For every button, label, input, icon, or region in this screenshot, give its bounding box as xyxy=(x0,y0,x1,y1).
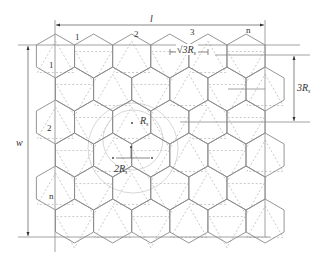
horizontal-pitch-dimension: √3Rs xyxy=(170,44,208,56)
column-labels: 123n xyxy=(75,25,251,42)
hexagon-cell xyxy=(132,199,170,243)
coverage-circles xyxy=(88,103,178,193)
column-label: 3 xyxy=(190,27,195,37)
length-label: l xyxy=(150,13,153,24)
row-label: 2 xyxy=(47,123,52,133)
arrow-up-icon xyxy=(293,56,296,60)
length-dimension: l xyxy=(56,13,264,27)
guide-lines xyxy=(18,20,310,252)
small-coverage-circle xyxy=(103,110,163,170)
hexagon-cell xyxy=(56,133,94,177)
dashed-triangle xyxy=(37,41,73,72)
dashed-triangle xyxy=(37,173,73,204)
arrow-right-icon xyxy=(260,24,264,27)
dashed-triangle xyxy=(190,173,226,204)
column-label: n xyxy=(246,25,251,35)
row-label: n xyxy=(49,191,54,201)
vertex-dot xyxy=(151,157,153,159)
width-label: w xyxy=(16,137,23,148)
dashed-triangle xyxy=(95,140,131,171)
row-labels: 12n xyxy=(47,60,54,201)
dashed-triangle xyxy=(95,206,131,237)
vertical-pitch-label: 3Rs xyxy=(296,82,311,94)
dashed-triangle xyxy=(190,107,226,138)
arrow-up-icon xyxy=(27,46,30,50)
arrow-left-icon xyxy=(56,24,60,27)
large-coverage-circle xyxy=(88,103,178,193)
dashed-triangle xyxy=(37,107,73,138)
hexagon-cell xyxy=(132,67,170,111)
vertical-pitch-dimension: 3Rs xyxy=(293,56,312,121)
vertex-dot xyxy=(112,157,114,159)
hexagon-cell xyxy=(75,34,113,78)
dashed-triangle xyxy=(171,140,207,171)
dashed-triangle xyxy=(171,206,207,237)
hexagon-cell xyxy=(56,67,94,111)
radius-label: Rs xyxy=(139,115,149,127)
hexagon-cell xyxy=(208,199,246,243)
hexagon-cell xyxy=(208,133,246,177)
width-dimension: w xyxy=(16,46,30,236)
dashed-triangle xyxy=(171,74,207,105)
dashed-triangle xyxy=(114,41,150,72)
hexagon-cell xyxy=(227,34,265,78)
diameter-label: 2Rs xyxy=(114,163,128,175)
diagram-canvas: l w √3Rs 3Rs xyxy=(0,0,326,260)
arrow-down-icon xyxy=(293,117,296,121)
dashed-triangle xyxy=(95,74,131,105)
hexagon-cell xyxy=(151,34,189,78)
hex-tiling-diagram: l w √3Rs 3Rs xyxy=(0,0,326,260)
arrow-down-icon xyxy=(27,232,30,236)
center-dot xyxy=(131,122,133,124)
row-label: 1 xyxy=(49,60,54,70)
column-label: 1 xyxy=(75,32,80,42)
column-label: 2 xyxy=(134,29,139,39)
dashed-triangle xyxy=(114,173,150,204)
hexagon-cell xyxy=(56,199,94,243)
hexagon-cell xyxy=(132,133,170,177)
